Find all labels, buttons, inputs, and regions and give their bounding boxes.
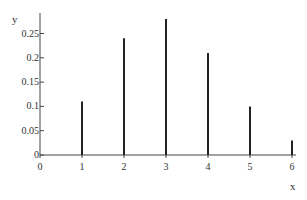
y-tick-label: 0.15 (22, 76, 40, 87)
x-tick-label: 6 (290, 161, 295, 172)
x-tick-label: 2 (122, 161, 127, 172)
y-tick-label: 0 (34, 149, 39, 160)
y-tick-label: 0.2 (27, 52, 40, 63)
x-tick-label: 0 (38, 161, 43, 172)
y-tick-label: 0.1 (27, 100, 40, 111)
y-tick-label: 0.05 (22, 125, 40, 136)
x-tick-label: 4 (206, 161, 211, 172)
y-axis: 00.050.10.150.20.25 (22, 13, 45, 160)
stem-chart: 00.050.10.150.20.25 0123456 y x (0, 0, 307, 200)
y-tick-label: 0.25 (22, 28, 40, 39)
x-axis: 0123456 (38, 155, 297, 172)
bars (82, 19, 292, 155)
x-tick-label: 1 (80, 161, 85, 172)
x-tick-label: 3 (164, 161, 169, 172)
y-axis-title: y (12, 13, 18, 25)
x-axis-title: x (290, 180, 296, 192)
x-tick-label: 5 (248, 161, 253, 172)
